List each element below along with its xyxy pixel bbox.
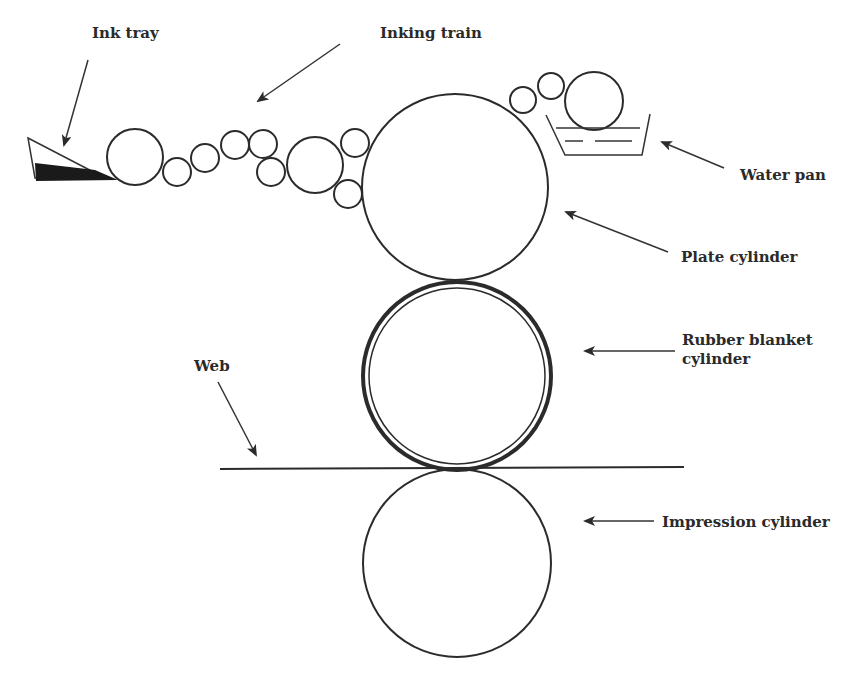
blanket-inner <box>369 288 545 464</box>
inking-train-arrow <box>258 44 340 101</box>
ink-fill <box>35 163 118 181</box>
form-roller-2 <box>334 180 362 208</box>
ink-roller-large-2 <box>287 137 343 193</box>
offset-printing-diagram: Ink tray Inking train Water pan Plate cy… <box>0 0 855 690</box>
water-pan-arrow <box>662 142 724 168</box>
ink-roller-small-4 <box>249 130 277 158</box>
label-web: Web <box>193 357 230 375</box>
label-water-pan: Water pan <box>739 166 826 184</box>
dampening-system <box>510 72 650 155</box>
ink-tray <box>28 138 118 181</box>
ink-roller-small-1 <box>163 158 191 186</box>
blanket-outer <box>363 282 551 470</box>
label-rubber-blanket-line2: cylinder <box>682 350 751 368</box>
damp-roller-1 <box>510 87 536 113</box>
web-arrow <box>218 382 256 455</box>
fountain-roller <box>565 72 623 130</box>
plate-cylinder <box>362 94 548 280</box>
damp-roller-2 <box>538 73 564 99</box>
ink-roller-small-3 <box>221 131 249 159</box>
label-inking-train: Inking train <box>380 24 482 42</box>
label-rubber-blanket-line1: Rubber blanket <box>682 331 813 349</box>
impression-cylinder <box>363 469 551 657</box>
inking-train <box>107 129 369 208</box>
form-roller-1 <box>341 129 369 157</box>
label-plate-cylinder: Plate cylinder <box>681 248 799 266</box>
ink-tray-arrow <box>64 60 88 145</box>
ink-roller-small-5 <box>257 158 285 186</box>
water-pan <box>546 114 650 155</box>
label-impression-cylinder: Impression cylinder <box>662 513 831 531</box>
rubber-blanket-cylinder <box>363 282 551 470</box>
ink-roller-large-1 <box>107 129 163 185</box>
ink-roller-small-2 <box>191 144 219 172</box>
label-ink-tray: Ink tray <box>92 24 160 42</box>
plate-cylinder-arrow <box>566 212 668 252</box>
